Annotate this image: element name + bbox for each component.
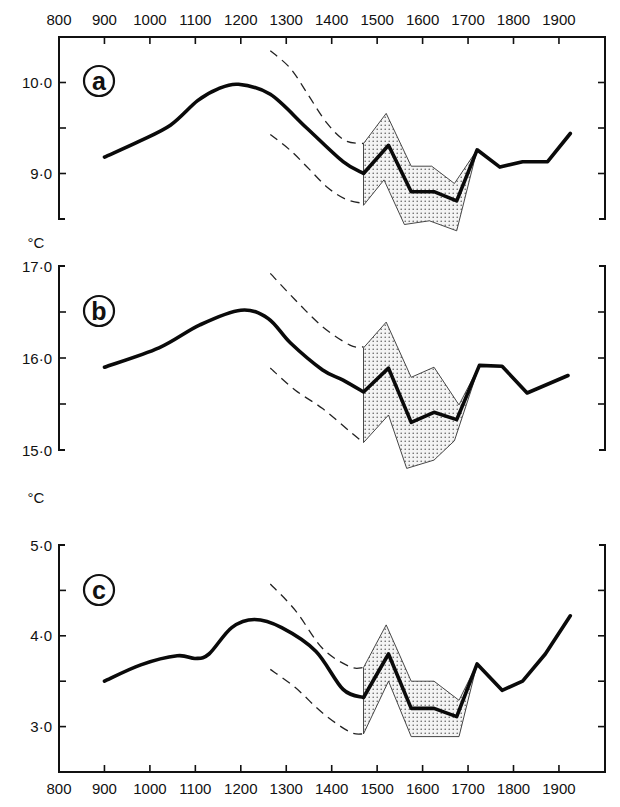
panel-b-stippled-range: [364, 322, 480, 468]
bottom-x-tick-label: 1800: [497, 780, 530, 797]
panel-a-dashed-bound: [270, 51, 363, 144]
top-x-tick-label: 1300: [270, 11, 303, 28]
panel-c-y-tick-label: 4·0: [30, 627, 52, 644]
bottom-x-tick-label: 1500: [360, 780, 393, 797]
top-x-tick-label: 1800: [497, 11, 530, 28]
top-x-tick-label: 1200: [224, 11, 257, 28]
bottom-x-tick-label: 1600: [406, 780, 439, 797]
mean-temperature-lines: [105, 84, 571, 716]
panel-b-y-tick-label: 15·0: [22, 442, 52, 459]
panel-b-letter: b: [91, 297, 106, 325]
top-x-tick-label: 1600: [406, 11, 439, 28]
dashed-bound-lines: [270, 51, 363, 734]
bottom-x-tick-label: 1400: [315, 780, 348, 797]
top-x-tick-label: 800: [46, 11, 71, 28]
panel-b-y-tick-label: 16·0: [22, 350, 52, 367]
bottom-x-tick-label: 1000: [133, 780, 166, 797]
panel-b-y-tick-label: 17·0: [22, 258, 52, 275]
panel-c-mean-line: [105, 616, 571, 717]
top-x-tick-label: 1700: [451, 11, 484, 28]
panel-c-stippled-range: [364, 625, 478, 737]
top-x-tick-label: 1100: [179, 11, 211, 28]
bottom-x-tick-label: 1700: [451, 780, 484, 797]
bottom-x-tick-label: 1300: [270, 780, 303, 797]
bottom-x-tick-label: 1900: [542, 780, 575, 797]
bottom-x-tick-label: 900: [92, 780, 117, 797]
panel-c-y-tick-label: 5·0: [30, 537, 52, 554]
panel-a-letter: a: [92, 67, 107, 95]
top-x-tick-label: 900: [92, 11, 117, 28]
panel-a-y-tick-label: 10·0: [22, 74, 52, 91]
panel-a-stippled-range: [364, 113, 478, 230]
top-x-tick-label: 1900: [542, 11, 575, 28]
bottom-x-tick-label: 1200: [224, 780, 257, 797]
unit-label-celsius: °C: [28, 489, 45, 506]
panel-a-mean-line: [105, 84, 571, 201]
axes: [59, 37, 605, 772]
panel-c-dashed-bound: [270, 584, 363, 668]
panel-c-right-axis: [599, 545, 605, 772]
panel-b-dashed-bound: [270, 368, 363, 443]
stippled-range-bands: [364, 113, 480, 736]
bottom-x-tick-label: 1100: [179, 780, 211, 797]
unit-label-celsius: °C: [28, 234, 45, 251]
temperature-reconstruction-figure: 9·010·0800900100011001200130014001500160…: [0, 0, 620, 807]
top-x-tick-label: 1000: [133, 11, 166, 28]
bottom-x-tick-label: 800: [46, 780, 71, 797]
chart-canvas: 9·010·0800900100011001200130014001500160…: [0, 0, 620, 807]
panel-a-y-tick-label: 9·0: [30, 165, 52, 182]
panel-c-y-tick-label: 3·0: [30, 718, 52, 735]
panel-c-left-axis: [59, 545, 65, 772]
panel-c-dashed-bound: [270, 669, 363, 734]
panel-b-mean-line: [105, 310, 569, 422]
top-x-tick-label: 1400: [315, 11, 348, 28]
panel-a-dashed-bound: [270, 134, 363, 203]
top-x-tick-label: 1500: [360, 11, 393, 28]
panel-c-letter: c: [92, 576, 106, 604]
